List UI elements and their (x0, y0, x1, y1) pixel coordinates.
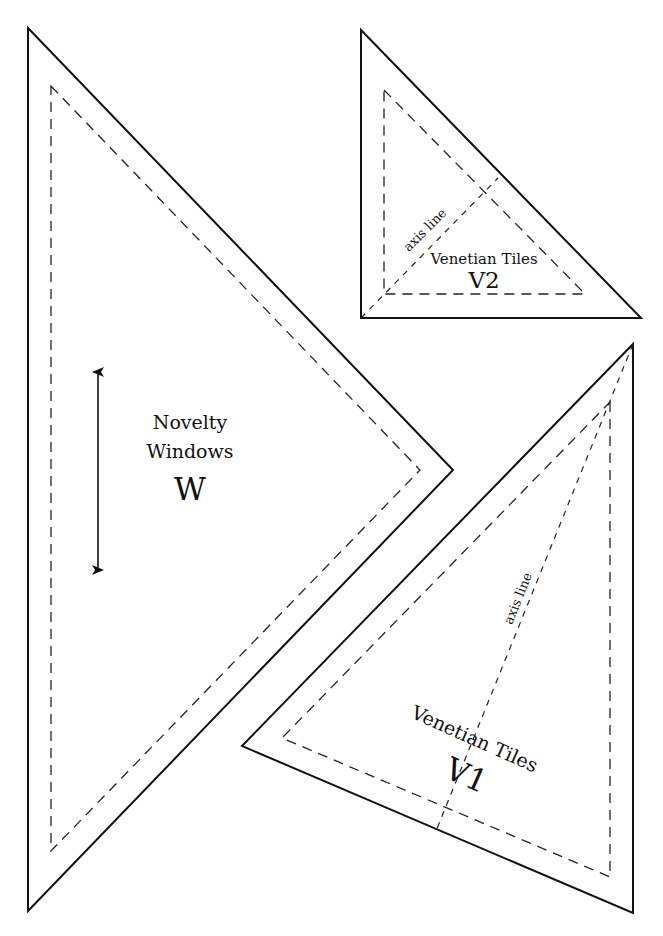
piece-v1-axis-label: axis line (501, 570, 535, 626)
piece-v2-axis-line (361, 178, 498, 318)
piece-v1-seam-line (282, 402, 610, 877)
piece-v2-code: V2 (467, 267, 499, 293)
piece-v2-venetian-tiles: axis line Venetian Tiles V2 (361, 30, 641, 318)
piece-w-name-line2: Windows (146, 440, 233, 462)
piece-w-novelty-windows: Novelty Windows W (28, 28, 453, 911)
piece-v1-code: V1 (439, 750, 493, 800)
piece-v2-name: Venetian Tiles (429, 250, 537, 268)
pattern-sheet: Novelty Windows W axis line Venetian Til… (0, 0, 663, 936)
piece-w-seam-line (51, 86, 420, 851)
piece-v2-axis-label: axis line (400, 205, 449, 254)
piece-w-name-line1: Novelty (153, 411, 228, 433)
piece-w-code: W (174, 471, 206, 507)
piece-w-cutting-line (28, 28, 453, 911)
